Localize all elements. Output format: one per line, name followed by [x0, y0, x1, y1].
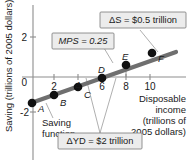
- x-tick-label-2: 2: [51, 81, 57, 92]
- saving-function-leader-line: [46, 103, 53, 118]
- x-tick-label-10: 10: [144, 81, 156, 92]
- data-point-a: [28, 99, 37, 108]
- y-axis-title: Saving (trillions of 2005 dollars): [3, 0, 14, 132]
- x-tick-label-8: 8: [123, 81, 129, 92]
- delta-yd-leader-line-2: [86, 78, 100, 133]
- point-label-c: C: [84, 89, 91, 100]
- mps-leader-line: [104, 48, 113, 63]
- delta-s-callout-text: ΔS = $0.5 trillion: [109, 15, 177, 25]
- chart-canvas: 2 0 -2 2 4 6 8 10 A B C D E F Saving (tr…: [0, 0, 190, 165]
- x-axis-title-line-1: Disposable: [139, 93, 186, 104]
- x-axis-title-line-3: (trillions of: [143, 115, 187, 126]
- saving-function-chart: 2 0 -2 2 4 6 8 10 A B C D E F Saving (tr…: [0, 0, 190, 165]
- point-label-d: D: [98, 64, 105, 75]
- delta-yd-callout-text: ΔYD = $2 trillion: [67, 136, 134, 146]
- x-tick-label-4: 4: [75, 81, 81, 92]
- delta-s-leader-line: [140, 30, 158, 52]
- y-tick-label-2: 2: [21, 32, 27, 43]
- data-point-f: [148, 49, 157, 58]
- y-tick-label-0: 0: [21, 77, 27, 88]
- point-label-b: B: [60, 97, 67, 108]
- saving-function-label-line-1: Saving: [42, 117, 71, 128]
- y-tick-label-neg2: -2: [20, 107, 29, 118]
- x-tick-label-6: 6: [99, 81, 105, 92]
- point-label-a: A: [37, 103, 44, 114]
- point-label-e: E: [122, 51, 129, 62]
- x-axis-title-line-2: income: [155, 104, 186, 115]
- mps-callout-text: MPS = 0.25: [59, 36, 109, 46]
